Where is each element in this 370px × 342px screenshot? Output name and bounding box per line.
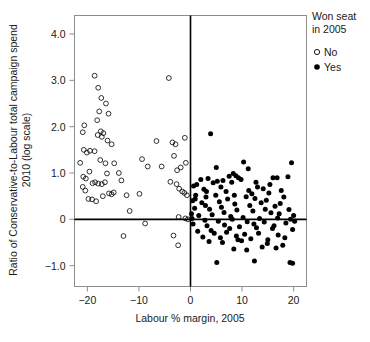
data-point-no — [154, 139, 159, 144]
data-point-yes — [206, 176, 211, 181]
data-point-yes — [250, 208, 255, 213]
data-point-yes — [208, 131, 213, 136]
data-point-yes — [253, 180, 258, 185]
data-point-yes — [215, 179, 220, 184]
data-point-yes — [200, 234, 205, 239]
data-point-yes — [275, 215, 280, 220]
legend-marker-filled-circle-icon — [314, 64, 320, 70]
data-point-no — [183, 160, 188, 165]
scatter-plot-figure: −20−1001020 4.03.02.01.00−1.0 Labour % m… — [0, 0, 370, 342]
data-point-yes — [246, 188, 251, 193]
data-point-no — [178, 165, 183, 170]
data-point-no — [112, 161, 117, 166]
data-point-no — [87, 169, 92, 174]
data-point-yes — [214, 165, 219, 170]
data-point-yes — [231, 246, 236, 251]
data-point-yes — [193, 196, 198, 201]
data-point-yes — [244, 194, 249, 199]
data-point-yes — [282, 235, 287, 240]
data-point-yes — [290, 261, 295, 266]
data-point-no — [106, 111, 111, 116]
data-point-yes — [191, 183, 196, 188]
data-point-yes — [241, 215, 246, 220]
data-point-yes — [242, 232, 247, 237]
data-point-no — [143, 221, 148, 226]
data-point-yes — [218, 235, 223, 240]
x-axis-tick-labels: −20−1001020 — [78, 294, 299, 306]
data-point-no — [82, 123, 87, 128]
data-point-yes — [220, 240, 225, 245]
x-tick-label: −20 — [78, 294, 96, 306]
data-point-yes — [232, 193, 237, 198]
data-point-yes — [276, 233, 281, 238]
data-point-yes — [241, 159, 246, 164]
data-point-no — [80, 130, 85, 135]
data-point-yes — [248, 236, 253, 241]
data-point-yes — [224, 189, 229, 194]
data-point-yes — [216, 219, 221, 224]
y-tick-label: 2.0 — [51, 121, 66, 133]
data-point-yes — [205, 223, 210, 228]
data-point-yes — [234, 208, 239, 213]
data-point-yes — [202, 218, 207, 223]
data-point-yes — [244, 247, 249, 252]
y-tick-label: 4.0 — [51, 28, 66, 40]
data-point-no — [176, 243, 181, 248]
data-point-yes — [230, 217, 235, 222]
data-point-yes — [196, 213, 201, 218]
data-point-no — [103, 161, 108, 166]
data-point-no — [121, 234, 126, 239]
x-axis-title: Labour % margin, 2005 — [135, 312, 244, 324]
data-point-yes — [232, 202, 237, 207]
data-point-no — [95, 118, 100, 123]
data-point-no — [174, 182, 179, 187]
y-axis-title-line1: Ratio of Conservative-to-Labour total ca… — [7, 24, 19, 276]
data-point-yes — [278, 201, 283, 206]
data-point-no — [92, 73, 97, 78]
y-tick-label: 0 — [60, 213, 66, 225]
data-point-no — [168, 179, 173, 184]
data-point-yes — [289, 160, 294, 165]
data-point-yes — [268, 210, 273, 215]
chart-canvas: −20−1001020 4.03.02.01.00−1.0 Labour % m… — [0, 0, 370, 342]
data-point-yes — [189, 211, 194, 216]
data-point-yes — [213, 193, 218, 198]
data-point-no — [98, 158, 103, 163]
data-point-yes — [203, 195, 208, 200]
x-tick-label: 0 — [188, 294, 194, 306]
data-point-yes — [227, 226, 232, 231]
data-point-yes — [273, 204, 278, 209]
data-point-yes — [190, 216, 195, 221]
data-point-yes — [204, 189, 209, 194]
data-point-yes — [280, 243, 285, 248]
data-point-yes — [260, 245, 265, 250]
data-point-no — [177, 186, 182, 191]
data-point-yes — [259, 200, 264, 205]
data-point-no — [92, 149, 97, 154]
y-axis-title-line2: 2010 (log scale) — [20, 113, 32, 188]
data-point-yes — [279, 188, 284, 193]
data-point-no — [172, 153, 177, 158]
data-point-yes — [272, 223, 277, 228]
data-point-no — [124, 193, 129, 198]
data-point-yes — [261, 186, 266, 191]
data-point-yes — [229, 180, 234, 185]
data-point-yes — [239, 177, 244, 182]
y-tick-label: 1.0 — [51, 167, 66, 179]
data-point-no — [83, 188, 88, 193]
legend: Won seat in 2005 No Yes — [312, 10, 356, 73]
data-point-no — [119, 178, 124, 183]
data-point-no — [104, 101, 109, 106]
legend-marker-open-circle-icon — [314, 49, 319, 54]
data-point-yes — [256, 231, 261, 236]
data-point-no — [171, 233, 176, 238]
data-point-yes — [251, 221, 256, 226]
data-point-yes — [222, 210, 227, 215]
data-point-no — [159, 164, 164, 169]
data-point-yes — [219, 205, 224, 210]
data-point-yes — [281, 195, 286, 200]
x-tick-label: 20 — [288, 294, 300, 306]
data-point-yes — [264, 198, 269, 203]
data-point-yes — [283, 221, 288, 226]
legend-title-line1: Won seat — [312, 10, 356, 22]
